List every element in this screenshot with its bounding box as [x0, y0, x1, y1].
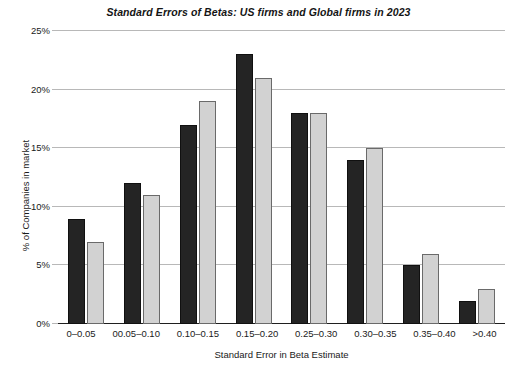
y-tick-label: 15% — [31, 142, 50, 153]
y-tick-label: 5% — [36, 259, 50, 270]
bar-global-firms — [255, 78, 272, 324]
x-tick-label: 0–0.05 — [66, 328, 95, 344]
bar-group — [236, 31, 272, 324]
bar-global-firms — [143, 195, 160, 324]
x-tick-label: 00.05–0.10 — [112, 328, 160, 344]
bar-group — [403, 31, 439, 324]
x-tick-label: 0.15–0.20 — [236, 328, 278, 344]
bar-group — [180, 31, 216, 324]
bar-series-container — [58, 31, 505, 324]
bar-global-firms — [478, 289, 495, 324]
bar-group — [291, 31, 327, 324]
bar-global-firms — [366, 148, 383, 324]
chart-title: Standard Errors of Betas: US firms and G… — [0, 6, 517, 18]
bar-group — [347, 31, 383, 324]
bar-global-firms — [87, 242, 104, 324]
bar-global-firms — [199, 101, 216, 324]
bar-global-firms — [422, 254, 439, 324]
x-tick-label: 0.10–0.15 — [177, 328, 219, 344]
bar-us-firms — [459, 301, 476, 324]
x-tick-label: 0.25–0.30 — [295, 328, 337, 344]
x-axis-title: Standard Error in Beta Estimate — [58, 349, 505, 360]
x-axis-tick-labels: 0–0.0500.05–0.100.10–0.150.15–0.200.25–0… — [58, 328, 505, 344]
bar-us-firms — [180, 125, 197, 324]
x-tick-label: 0.30–0.35 — [354, 328, 396, 344]
bar-group — [68, 31, 104, 324]
y-tick-label: 20% — [31, 83, 50, 94]
bar-us-firms — [403, 265, 420, 324]
bar-us-firms — [124, 183, 141, 324]
y-tick-label: 10% — [31, 200, 50, 211]
bar-us-firms — [347, 160, 364, 324]
bar-group — [459, 31, 495, 324]
x-tick-label: 0.35–0.40 — [413, 328, 455, 344]
bar-global-firms — [310, 113, 327, 324]
chart-figure: Standard Errors of Betas: US firms and G… — [0, 0, 517, 367]
y-axis-title: % of Companies in market — [20, 106, 31, 286]
y-tick-label: 0% — [36, 318, 50, 329]
bar-group — [124, 31, 160, 324]
y-tick-label: 25% — [31, 25, 50, 36]
bar-us-firms — [291, 113, 308, 324]
bar-us-firms — [68, 219, 85, 324]
bar-us-firms — [236, 54, 253, 324]
plot-area: 0%5%10%15%20%25% — [58, 31, 505, 324]
x-tick-label: >0.40 — [473, 328, 497, 344]
